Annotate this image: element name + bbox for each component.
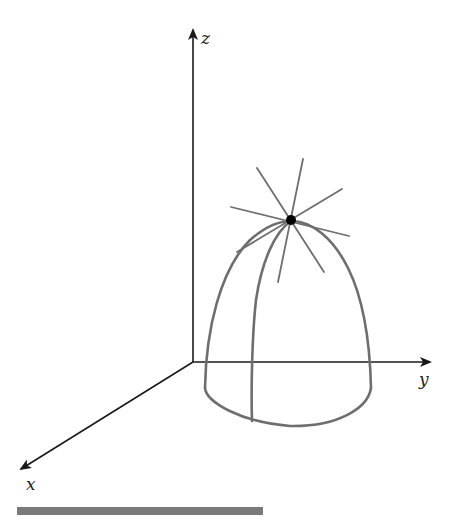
surface-diagram: z y x	[0, 0, 454, 526]
axes	[21, 30, 430, 469]
dome-surface	[205, 221, 371, 426]
apex-point	[286, 215, 296, 225]
x-axis	[21, 362, 193, 469]
bottom-bar	[17, 507, 263, 515]
dome-base-curve	[205, 388, 371, 426]
y-axis-label: y	[418, 369, 429, 389]
z-axis-label: z	[200, 28, 211, 48]
dome-outline	[205, 221, 371, 388]
x-axis-label: x	[26, 474, 36, 494]
